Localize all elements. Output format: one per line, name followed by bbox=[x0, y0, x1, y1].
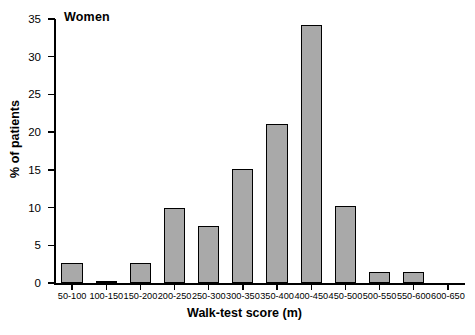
y-axis-tick-label: 25 bbox=[0, 87, 41, 101]
x-axis-tick-label: 500-550 bbox=[363, 292, 397, 301]
x-axis-tick-label: 150-200 bbox=[124, 292, 158, 301]
y-axis-tick-label: 15 bbox=[0, 163, 41, 177]
bar bbox=[301, 25, 322, 283]
x-axis-tick bbox=[379, 283, 380, 290]
x-axis-tick bbox=[311, 283, 312, 290]
bar bbox=[61, 263, 82, 283]
x-axis-tick-label: 600-650 bbox=[431, 292, 465, 301]
bar bbox=[266, 124, 287, 283]
x-axis-title: Walk-test score (m) bbox=[0, 306, 475, 320]
x-axis-tick bbox=[242, 283, 243, 290]
y-axis-tick bbox=[48, 207, 55, 208]
x-axis-tick-label: 550-600 bbox=[397, 292, 431, 301]
y-axis-tick-label: 30 bbox=[0, 50, 41, 64]
y-axis-tick bbox=[48, 18, 55, 19]
x-axis-tick bbox=[71, 283, 72, 290]
x-axis-line bbox=[54, 283, 465, 285]
x-axis-tick bbox=[174, 283, 175, 290]
y-axis-tick-label: 0 bbox=[0, 276, 41, 290]
x-axis-tick bbox=[140, 283, 141, 290]
bar bbox=[198, 226, 219, 283]
x-axis-tick-label: 100-150 bbox=[89, 292, 123, 301]
y-axis-tick bbox=[48, 94, 55, 95]
bar bbox=[335, 206, 356, 283]
plot-area bbox=[55, 19, 465, 283]
y-axis-tick-label: 20 bbox=[0, 125, 41, 139]
x-axis-tick-label: 350-400 bbox=[260, 292, 294, 301]
bar bbox=[164, 208, 185, 283]
x-axis-tick-label: 300-350 bbox=[226, 292, 260, 301]
y-axis-tick-label: 10 bbox=[0, 201, 41, 215]
x-axis-tick bbox=[447, 283, 448, 290]
bar bbox=[403, 272, 424, 283]
x-axis-tick bbox=[208, 283, 209, 290]
x-axis-tick-label: 200-250 bbox=[158, 292, 192, 301]
y-axis-tick-label: 35 bbox=[0, 12, 41, 26]
x-axis-tick bbox=[413, 283, 414, 290]
y-axis-tick-label: 5 bbox=[0, 238, 41, 252]
x-axis-tick bbox=[276, 283, 277, 290]
bar bbox=[130, 263, 151, 283]
bar bbox=[232, 169, 253, 283]
histogram-figure: Women % of patients 05101520253035 50-10… bbox=[0, 0, 475, 335]
y-axis-tick bbox=[48, 131, 55, 132]
x-axis-tick-label: 450-500 bbox=[329, 292, 363, 301]
x-axis-title-text: Walk-test score (m) bbox=[187, 306, 302, 320]
y-axis-tick bbox=[48, 169, 55, 170]
y-axis-tick bbox=[48, 245, 55, 246]
x-axis-tick-label: 250-300 bbox=[192, 292, 226, 301]
x-axis-tick bbox=[106, 283, 107, 290]
y-axis-tick bbox=[48, 56, 55, 57]
bar bbox=[369, 272, 390, 283]
x-axis-tick-label: 50-100 bbox=[58, 292, 87, 301]
y-axis-tick bbox=[48, 282, 55, 283]
x-axis-tick bbox=[345, 283, 346, 290]
x-axis-tick-label: 400-450 bbox=[294, 292, 328, 301]
